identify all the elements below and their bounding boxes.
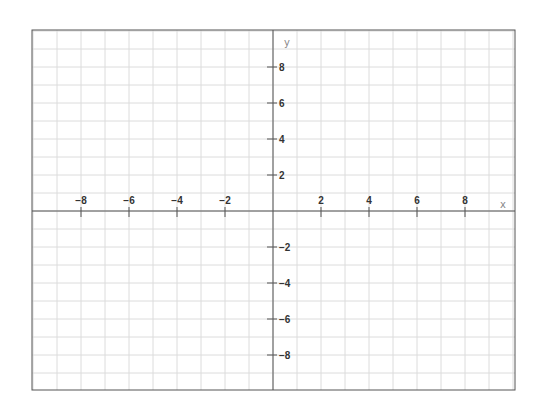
x-tick-label: 4: [366, 195, 372, 206]
y-tick-label: 6: [279, 98, 285, 109]
y-tick-label: −2: [279, 242, 291, 253]
y-tick-label: 8: [279, 62, 285, 73]
x-tick-label: 2: [318, 195, 324, 206]
x-tick-label: 8: [462, 195, 468, 206]
y-axis-label: y: [284, 37, 290, 48]
x-tick-label: −6: [123, 195, 135, 206]
y-tick-label: −6: [279, 314, 291, 325]
x-tick-label: −8: [75, 195, 87, 206]
x-tick-label: −2: [219, 195, 231, 206]
y-tick-label: 4: [279, 134, 285, 145]
x-axis-label: x: [500, 199, 506, 210]
y-tick-label: −8: [279, 350, 291, 361]
x-axis-ticks: −8−6−4−22468: [75, 195, 468, 217]
coordinate-plane: −8−6−4−22468 8642−2−4−6−8 x y: [0, 0, 539, 417]
y-tick-label: 2: [279, 170, 285, 181]
x-tick-label: −4: [171, 195, 183, 206]
y-tick-label: −4: [279, 278, 291, 289]
x-tick-label: 6: [414, 195, 420, 206]
